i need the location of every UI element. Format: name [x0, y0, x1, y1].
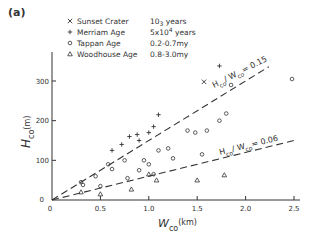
- data-point: [127, 134, 131, 138]
- data-point: [110, 167, 114, 171]
- data-point: [193, 131, 197, 135]
- data-point: [94, 174, 98, 178]
- data-point: [222, 173, 227, 177]
- legend-name: Merriam Age: [77, 28, 125, 37]
- data-point: [218, 119, 222, 123]
- data-point: [290, 77, 294, 81]
- legend-name: Tappan Age: [76, 39, 121, 48]
- data-point: [68, 30, 72, 34]
- data-point: [126, 176, 130, 180]
- legend-name: Sunset Crater: [77, 17, 130, 26]
- data-point: [147, 172, 152, 176]
- data-point: [119, 142, 123, 146]
- data-point: [217, 64, 221, 68]
- data-point: [200, 153, 204, 157]
- legend-item: Tappan Age0.2-0.7my: [76, 39, 189, 48]
- data-point: [171, 157, 175, 161]
- legend-item: Merriam Age5x104 years: [77, 26, 196, 37]
- data-point: [147, 163, 151, 167]
- data-point: [154, 178, 159, 182]
- svg-text:Hco/ Wco= 0.15: Hco/ Wco= 0.15: [211, 54, 270, 91]
- x-axis-title: Wco(km): [158, 217, 197, 233]
- svg-text:Hco(m): Hco(m): [19, 116, 36, 148]
- data-point: [142, 159, 146, 163]
- x-tick-label: 2.0: [240, 205, 251, 213]
- data-point: [205, 129, 209, 133]
- legend-item: Woodhouse Age0.8-3.0my: [77, 50, 189, 59]
- scatter-chart: (a)00.51.01.52.02.50100200300Wco(km)Hco(…: [0, 0, 318, 242]
- legend-age: 0.8-3.0my: [150, 50, 189, 59]
- data-point: [99, 184, 103, 188]
- y-axis-title: Hco(m): [19, 116, 36, 148]
- data-point: [137, 168, 141, 172]
- data-point: [110, 148, 114, 152]
- data-point: [68, 41, 72, 45]
- data-point: [157, 149, 161, 153]
- legend-age: 0.2-0.7my: [150, 39, 189, 48]
- y-tick-label: 0: [40, 196, 44, 204]
- legend-age: 5x104 years: [150, 26, 196, 37]
- y-tick-label: 200: [36, 117, 49, 125]
- data-point: [151, 124, 155, 128]
- data-point: [186, 129, 190, 133]
- data-point: [68, 19, 72, 23]
- data-point: [224, 112, 228, 116]
- reference-line-1: [52, 141, 294, 201]
- data-point: [81, 183, 85, 187]
- ref-label-015: Hco/ Wco= 0.15: [211, 54, 270, 91]
- y-tick-label: 100: [36, 157, 49, 165]
- x-tick-label: 2.5: [288, 205, 299, 213]
- data-point: [135, 132, 139, 136]
- panel-label: (a): [8, 6, 25, 19]
- data-point: [229, 83, 233, 87]
- data-point: [156, 113, 160, 117]
- x-tick-label: 1.5: [192, 205, 203, 213]
- data-point: [166, 147, 170, 151]
- legend-name: Woodhouse Age: [77, 50, 138, 59]
- data-point: [79, 190, 84, 194]
- data-point: [68, 52, 73, 56]
- reference-line-0: [52, 67, 269, 200]
- data-point: [147, 130, 151, 134]
- data-point: [137, 138, 141, 142]
- data-point: [98, 192, 103, 196]
- x-tick-label: 0.5: [95, 205, 106, 213]
- x-tick-label: 1.0: [143, 205, 154, 213]
- data-point: [123, 159, 127, 163]
- data-point: [202, 80, 206, 84]
- y-tick-label: 300: [36, 78, 49, 86]
- data-point: [195, 178, 200, 182]
- data-point: [129, 187, 134, 191]
- legend: Sunset Crater103 yearsMerriam Age5x104 y…: [76, 17, 196, 59]
- x-tick-label: 0: [48, 205, 52, 213]
